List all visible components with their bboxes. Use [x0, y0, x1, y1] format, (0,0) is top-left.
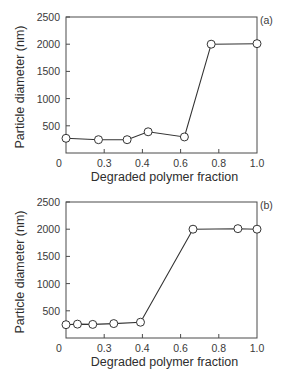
data-point — [180, 133, 188, 141]
x-axis-label: Degraded polymer fraction — [91, 170, 238, 184]
data-point — [136, 318, 144, 326]
y-tick-label: 2500 — [37, 196, 61, 208]
x-tick-label: 0.4 — [135, 342, 150, 354]
x-tick-label: 0.6 — [173, 157, 188, 169]
y-axis-label: Particle diameter (nm) — [13, 26, 27, 149]
data-point — [207, 40, 215, 48]
x-axis: 00.30.40.60.81.0 — [56, 149, 264, 169]
x-tick-label: 0.4 — [135, 157, 150, 169]
x-tick-label: 0.3 — [97, 157, 112, 169]
x-tick-label: 0.3 — [97, 342, 112, 354]
y-tick-label: 1000 — [37, 278, 61, 290]
data-point — [89, 320, 97, 328]
panel-label: (a) — [260, 14, 273, 26]
series-line — [66, 44, 257, 140]
chart-panel-b: 5001000150020002500 00.30.40.60.81.0 Par… — [13, 196, 273, 369]
data-point — [123, 136, 131, 144]
data-point — [253, 40, 261, 48]
y-axis: 5001000150020002500 — [37, 196, 70, 317]
chart-panel-a: 5001000150020002500 00.30.40.60.81.0 Par… — [13, 11, 273, 184]
y-tick-label: 500 — [42, 305, 60, 317]
panel-label: (b) — [260, 199, 273, 211]
data-point — [189, 225, 197, 233]
data-point — [94, 136, 102, 144]
data-point — [144, 128, 152, 136]
x-tick-label: 0.8 — [211, 157, 226, 169]
y-tick-label: 1500 — [37, 65, 61, 77]
x-axis: 00.30.40.60.81.0 — [56, 334, 264, 354]
series-group — [62, 40, 261, 144]
data-point — [62, 321, 70, 329]
y-tick-label: 2500 — [37, 11, 61, 23]
x-tick-label: 0 — [56, 157, 62, 169]
y-tick-label: 2000 — [37, 223, 61, 235]
x-axis-label: Degraded polymer fraction — [91, 355, 238, 369]
y-tick-label: 1500 — [37, 250, 61, 262]
data-point — [110, 320, 118, 328]
series-group — [62, 225, 261, 329]
y-axis-label: Particle diameter (nm) — [13, 211, 27, 334]
data-point — [73, 320, 81, 328]
x-tick-label: 0.8 — [211, 342, 226, 354]
data-point — [62, 134, 70, 142]
series-line — [66, 229, 257, 325]
figure: 5001000150020002500 00.30.40.60.81.0 Par… — [0, 0, 289, 385]
x-tick-label: 1.0 — [250, 157, 265, 169]
plot-frame — [66, 17, 257, 153]
data-point — [253, 225, 261, 233]
y-axis: 5001000150020002500 — [37, 11, 70, 132]
y-tick-label: 1000 — [37, 93, 61, 105]
y-tick-label: 500 — [42, 120, 60, 132]
x-tick-label: 1.0 — [250, 342, 265, 354]
y-tick-label: 2000 — [37, 38, 61, 50]
plot-frame — [66, 202, 257, 338]
x-tick-label: 0 — [56, 342, 62, 354]
data-point — [234, 225, 242, 233]
x-tick-label: 0.6 — [173, 342, 188, 354]
